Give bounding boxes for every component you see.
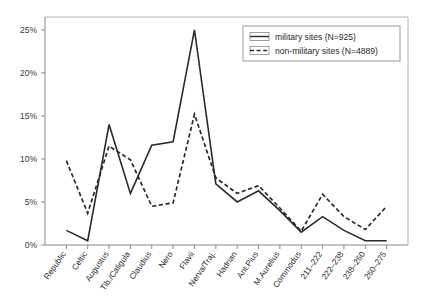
legend: military sites (N=925) non-military site… xyxy=(243,26,400,61)
y-tick-label: 10% xyxy=(20,154,37,164)
y-tick-label: 15% xyxy=(20,111,37,121)
y-tick-label: 20% xyxy=(20,68,37,78)
y-tick-label: 0% xyxy=(25,240,38,250)
legend-label-non-military: non-military sites (N=4889) xyxy=(275,46,378,56)
legend-entry-military: military sites (N=925) xyxy=(250,32,356,42)
legend-label-military: military sites (N=925) xyxy=(275,32,356,42)
legend-entry-non-military: non-military sites (N=4889) xyxy=(250,46,378,56)
chart-page: 0%5%10%15%20%25% RepublicCelticAugustusT… xyxy=(0,0,433,306)
y-tick-label: 25% xyxy=(20,25,37,35)
line-chart: 0%5%10%15%20%25% RepublicCelticAugustusT… xyxy=(0,0,433,306)
y-tick-label: 5% xyxy=(25,197,38,207)
